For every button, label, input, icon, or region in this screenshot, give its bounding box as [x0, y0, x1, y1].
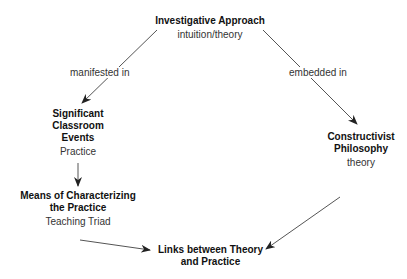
node-title-line: Philosophy [318, 143, 404, 155]
node-title-line: and Practice [148, 256, 273, 268]
node-title-line: Significant [38, 108, 118, 120]
node-means-of-characterizing: Means of Characterizing the Practice Tea… [8, 190, 148, 228]
node-title-line: Constructivist [318, 131, 404, 143]
edge-constructivist-to-links [266, 197, 340, 249]
node-significant-classroom-events: Significant Classroom Events Practice [38, 108, 118, 158]
node-investigative-approach: Investigative Approach intuition/theory [140, 15, 280, 41]
node-title-line: Events [38, 132, 118, 144]
node-title-line: the Practice [8, 202, 148, 214]
edge-label-embedded-in: embedded in [287, 67, 349, 78]
node-subtitle: theory [318, 156, 404, 169]
edge-means-to-links [80, 240, 150, 250]
node-title-line: Links between Theory [148, 244, 273, 256]
node-constructivist-philosophy: Constructivist Philosophy theory [318, 131, 404, 169]
edge-label-manifested-in: manifested in [68, 67, 131, 78]
node-links-theory-practice: Links between Theory and Practice [148, 244, 273, 268]
node-title-line: Means of Characterizing [8, 190, 148, 202]
node-title-line: Classroom [38, 120, 118, 132]
node-subtitle: intuition/theory [140, 28, 280, 41]
node-subtitle: Teaching Triad [8, 215, 148, 228]
node-title: Investigative Approach [140, 15, 280, 27]
node-subtitle: Practice [38, 145, 118, 158]
